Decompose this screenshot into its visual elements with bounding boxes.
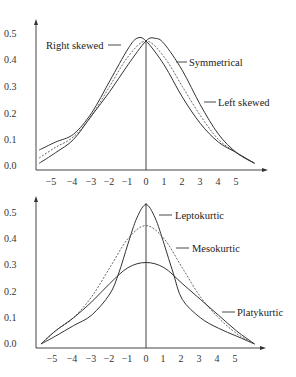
y-tick-label: 0.2 — [4, 108, 17, 119]
platykurtic-curve — [41, 263, 255, 345]
kurtosis-chart: 0.5 0.4 0.3 0.2 0.1 0.0 −5 −4 −3 −2 −1 0… — [4, 196, 283, 364]
x-tick-labels: −5 −4 −3 −2 −1 0 1 2 3 4 5 — [47, 353, 238, 364]
x-tick-label: −2 — [104, 176, 115, 187]
y-tick-label: 0.5 — [4, 28, 17, 39]
x-tick-label: 3 — [198, 176, 203, 187]
skewness-chart: 0.5 0.4 0.3 0.2 0.1 0.0 −5 −4 −3 −2 −1 0… — [4, 19, 270, 187]
y-tick-label: 0.0 — [4, 160, 17, 171]
y-tick-label: 0.3 — [4, 81, 17, 92]
x-tick-label: −1 — [122, 176, 133, 187]
x-tick-label: 5 — [233, 353, 238, 364]
y-tick-label: 0.1 — [4, 134, 17, 145]
y-tick-labels: 0.5 0.4 0.3 0.2 0.1 0.0 — [4, 28, 17, 171]
y-tick-labels: 0.5 0.4 0.3 0.2 0.1 0.0 — [4, 207, 17, 349]
y-axis-arrow-icon — [34, 196, 38, 202]
right-skewed-label: Right skewed — [46, 40, 104, 51]
x-tick-label: 1 — [162, 176, 167, 187]
mesokurtic-label: Mesokurtic — [192, 243, 240, 254]
x-tick-label: 2 — [180, 176, 185, 187]
x-tick-label: −1 — [122, 353, 133, 364]
y-tick-label: 0.0 — [4, 338, 17, 349]
x-tick-label: 1 — [161, 353, 166, 364]
x-tick-label: 0 — [144, 176, 149, 187]
y-tick-label: 0.1 — [4, 312, 17, 323]
y-tick-label: 0.4 — [4, 233, 17, 244]
left-skewed-label: Left skewed — [218, 97, 270, 108]
x-tick-label: −2 — [104, 353, 115, 364]
x-tick-label: −3 — [86, 353, 97, 364]
x-tick-label: 4 — [216, 176, 221, 187]
leptokurtic-label: Leptokurtic — [175, 210, 224, 221]
symmetrical-label: Symmetrical — [189, 57, 243, 68]
figure: 0.5 0.4 0.3 0.2 0.1 0.0 −5 −4 −3 −2 −1 0… — [0, 0, 296, 377]
x-tick-labels: −5 −4 −3 −2 −1 0 1 2 3 4 5 — [46, 176, 239, 187]
x-tick-label: 2 — [179, 353, 184, 364]
x-tick-label: 3 — [197, 353, 202, 364]
x-axis-arrow-icon — [260, 346, 266, 350]
x-tick-label: 5 — [234, 176, 239, 187]
x-axis-arrow-icon — [262, 168, 268, 172]
x-tick-label: −3 — [86, 176, 97, 187]
x-tick-label: −5 — [46, 176, 57, 187]
x-tick-label: 4 — [215, 353, 220, 364]
x-tick-label: 0 — [144, 353, 149, 364]
y-axis-arrow-icon — [34, 19, 38, 25]
x-tick-label: −4 — [67, 176, 78, 187]
x-tick-label: −5 — [47, 353, 58, 364]
y-tick-label: 0.2 — [4, 286, 17, 297]
y-tick-label: 0.4 — [4, 54, 17, 65]
platykurtic-label: Platykurtic — [237, 307, 283, 318]
y-tick-label: 0.3 — [4, 259, 17, 270]
x-tick-label: −4 — [67, 353, 78, 364]
y-tick-label: 0.5 — [4, 207, 17, 218]
